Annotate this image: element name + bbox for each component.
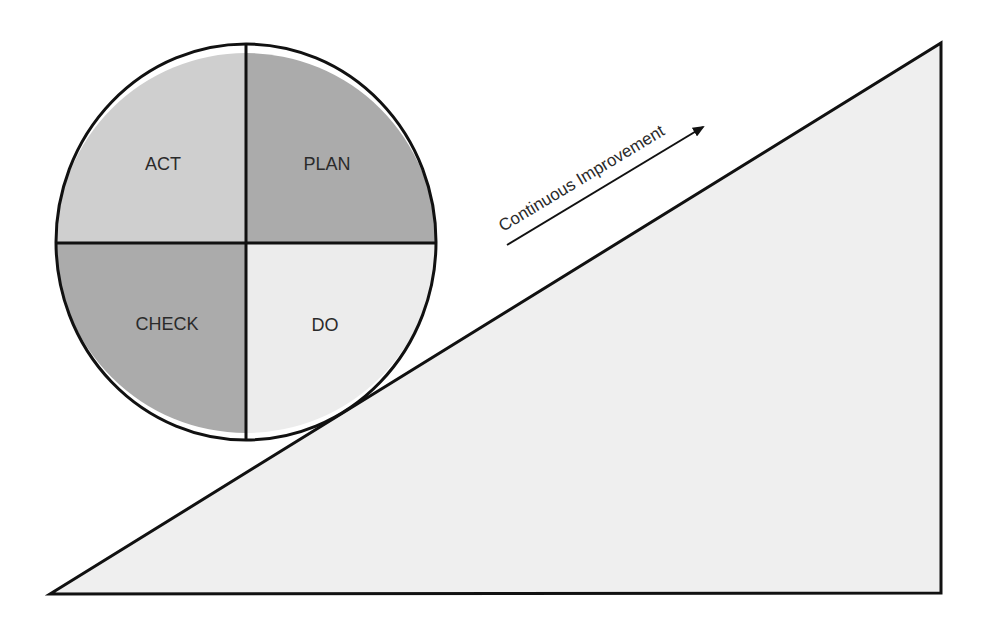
quadrant-plan <box>246 53 436 243</box>
arrow-label: Continuous Improvement <box>495 121 668 235</box>
label-do: DO <box>312 315 339 335</box>
label-plan: PLAN <box>303 154 350 174</box>
quadrant-act <box>56 53 246 243</box>
label-act: ACT <box>145 154 181 174</box>
pdca-wheel <box>56 44 436 440</box>
quadrant-check <box>56 243 246 433</box>
label-check: CHECK <box>135 314 198 334</box>
pdca-diagram: ACT PLAN CHECK DO Continuous Improvement <box>0 0 991 627</box>
